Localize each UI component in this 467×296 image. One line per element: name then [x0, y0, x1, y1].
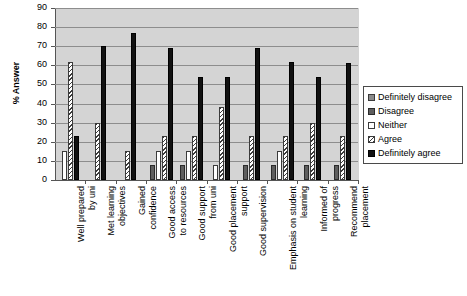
bar [74, 136, 79, 180]
bar [62, 151, 67, 180]
bar-group [237, 8, 267, 180]
y-tick-label: 70 [17, 41, 47, 50]
bar [255, 48, 260, 180]
bar [334, 165, 339, 180]
bar [180, 165, 185, 180]
legend-swatch-icon [368, 122, 375, 129]
x-tick-mark [146, 180, 147, 184]
x-tick-label: Informed of progress [319, 186, 341, 286]
legend-swatch-icon [368, 94, 375, 101]
y-tick-label: 20 [17, 137, 47, 146]
bar [95, 123, 100, 180]
x-tick-label: Good access to resources [167, 186, 189, 286]
bars-layer [55, 8, 358, 180]
bar [192, 136, 197, 180]
bar-group [85, 8, 115, 180]
bar [249, 136, 254, 180]
x-tick-label: Recommend placement [349, 186, 371, 286]
y-tick-label: 0 [17, 175, 47, 184]
x-tick-label: Good support from uni [197, 186, 219, 286]
bar [304, 165, 309, 180]
bar [340, 136, 345, 180]
x-tick-label: Good supervision [258, 186, 269, 286]
legend-item: Agree [368, 132, 459, 146]
x-tick-mark [237, 180, 238, 184]
y-tick-mark [51, 180, 55, 181]
x-tick-label: Good placement support [228, 186, 250, 286]
bar [156, 151, 161, 180]
legend-item: Disagree [368, 104, 459, 118]
bar [150, 165, 155, 180]
legend-label: Agree [378, 134, 402, 144]
x-tick-mark [328, 180, 329, 184]
x-tick-mark [297, 180, 298, 184]
bar-group [116, 8, 146, 180]
bar-group [207, 8, 237, 180]
bar-group [176, 8, 206, 180]
x-tick-mark [85, 180, 86, 184]
legend-swatch-icon [368, 108, 375, 115]
bar [168, 48, 173, 180]
legend-item: Definitely disagree [368, 90, 459, 104]
legend-item: Neither [368, 118, 459, 132]
y-tick-label: 80 [17, 22, 47, 31]
bar [101, 46, 106, 180]
y-tick-label: 10 [17, 156, 47, 165]
chart-legend: Definitely disagreeDisagreeNeitherAgreeD… [363, 86, 463, 164]
x-tick-mark [176, 180, 177, 184]
bar [213, 165, 218, 180]
x-tick-label: Met learning objectives [106, 186, 128, 286]
bar [186, 151, 191, 180]
legend-label: Definitely disagree [378, 92, 452, 102]
x-tick-mark [116, 180, 117, 184]
bar [68, 62, 73, 180]
bar [125, 151, 130, 180]
x-tick-label: Emphasis on student learning [288, 186, 310, 286]
bar [289, 62, 294, 180]
legend-label: Definitely agree [378, 148, 441, 158]
legend-swatch-icon [368, 150, 375, 157]
y-tick-label: 60 [17, 60, 47, 69]
y-tick-label: 90 [17, 3, 47, 12]
legend-swatch-icon [368, 136, 375, 143]
x-tick-label: Gained confidence [137, 186, 159, 286]
x-tick-label: Well prepared by uni [76, 186, 98, 286]
x-axis-labels: Well prepared by uniMet learning objecti… [55, 186, 358, 292]
x-tick-mark [207, 180, 208, 184]
x-tick-mark [267, 180, 268, 184]
bar [131, 33, 136, 180]
bar-chart: % Answer 0102030405060708090 Well prepar… [0, 0, 467, 296]
bar [198, 77, 203, 180]
legend-label: Neither [378, 120, 407, 130]
plot-wrapper: 0102030405060708090 [55, 8, 358, 180]
y-tick-label: 40 [17, 99, 47, 108]
bar [277, 151, 282, 180]
bar-group [328, 8, 358, 180]
bar [219, 107, 224, 180]
bar [316, 77, 321, 180]
bar-group [55, 8, 85, 180]
legend-item: Definitely agree [368, 146, 459, 160]
y-tick-label: 50 [17, 79, 47, 88]
bar-group [297, 8, 327, 180]
x-tick-mark [358, 180, 359, 184]
bar [310, 123, 315, 180]
bar [271, 165, 276, 180]
bar-group [146, 8, 176, 180]
bar [225, 77, 230, 180]
legend-label: Disagree [378, 106, 414, 116]
bar [346, 63, 351, 180]
bar [283, 136, 288, 180]
bar [243, 165, 248, 180]
bar [162, 136, 167, 180]
bar-group [267, 8, 297, 180]
y-tick-label: 30 [17, 118, 47, 127]
